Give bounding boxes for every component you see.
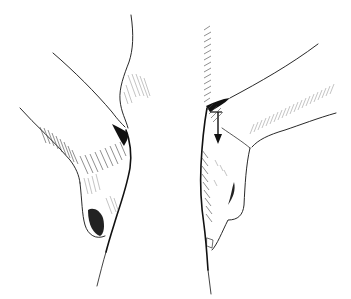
left-hand-figure	[20, 15, 150, 286]
illustration-svg	[0, 0, 351, 299]
left-forearm-upper-line	[53, 53, 125, 127]
right-wrist-inner-line	[222, 128, 250, 148]
right-wrist-shadow	[206, 98, 230, 112]
left-palm-edge	[106, 130, 131, 252]
right-forearm-lower-line	[252, 113, 336, 147]
illustration-canvas	[0, 0, 351, 299]
right-knuckle-shadow	[228, 182, 235, 205]
right-hand-figure	[201, 25, 336, 294]
right-arm-hatching	[204, 26, 211, 102]
left-finger-line	[97, 252, 106, 286]
left-knuckle-shadow	[88, 209, 104, 236]
right-fingernail	[207, 238, 213, 248]
right-hatching	[202, 84, 334, 222]
right-finger-tip-line	[208, 270, 211, 294]
left-forearm-lower-line	[20, 108, 80, 183]
right-forearm-upper-line	[230, 44, 318, 98]
left-hatching	[40, 74, 150, 214]
right-arm-block	[203, 25, 211, 105]
left-upper-arm-line	[120, 15, 133, 128]
